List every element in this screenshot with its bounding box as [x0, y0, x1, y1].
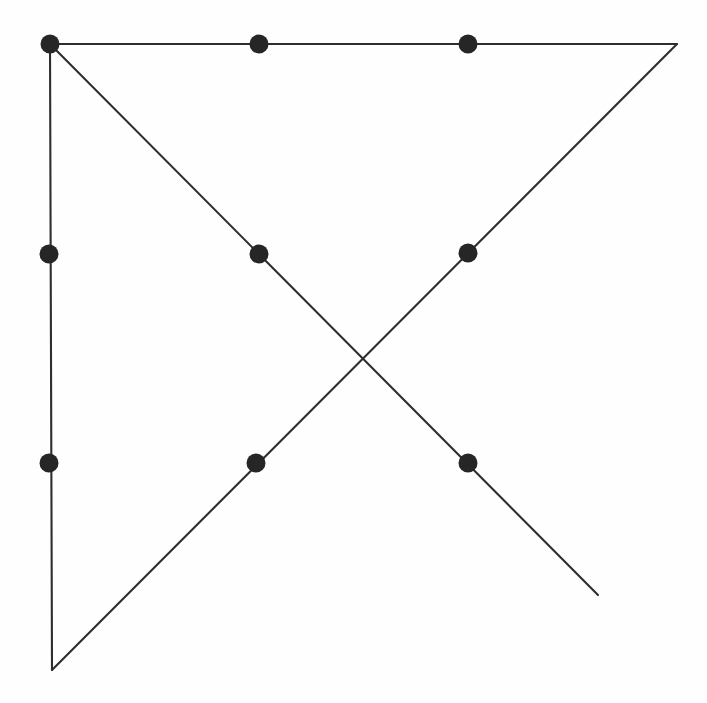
- vertex-dot-mid-right-ascending: [459, 244, 478, 263]
- vertex-dot-top-left-corner: [41, 35, 60, 54]
- edges-group: [50, 44, 677, 670]
- vertex-dot-top-right-inner: [459, 35, 478, 54]
- edge-left-vertical-edge: [50, 44, 52, 670]
- vertex-dot-top-middle: [250, 35, 269, 54]
- edge-descending-diagonal: [50, 44, 598, 595]
- edge-ascending-diagonal: [52, 44, 677, 670]
- vertex-dot-mid-center-descending: [250, 245, 269, 264]
- vertex-dot-low-left: [40, 454, 59, 473]
- vertex-dot-low-center-ascending: [247, 454, 266, 473]
- figure-canvas: [0, 0, 707, 703]
- line-diagram-svg: [0, 0, 707, 703]
- vertex-dot-mid-left: [40, 245, 59, 264]
- vertex-dot-low-right-descending: [459, 454, 478, 473]
